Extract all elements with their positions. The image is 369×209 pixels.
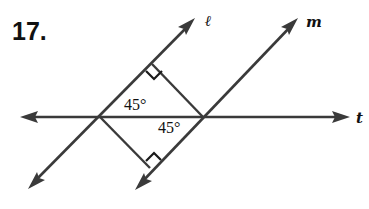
line-l [28, 18, 195, 189]
problem-number: 17. [12, 17, 47, 45]
line-t [20, 111, 350, 123]
label-t: t [356, 109, 363, 127]
angle-label-upper: 45° [124, 96, 146, 113]
line-m [135, 18, 298, 190]
label-m: m [306, 13, 322, 31]
label-l: ℓ [205, 12, 211, 30]
right-angle-mark-lower [146, 153, 161, 161]
right-angle-mark-upper [146, 71, 162, 79]
perpendicular-lower [100, 117, 150, 168]
geometry-diagram: 17. t ℓ m 45° 45° [0, 0, 369, 209]
angle-label-lower: 45° [158, 119, 180, 136]
